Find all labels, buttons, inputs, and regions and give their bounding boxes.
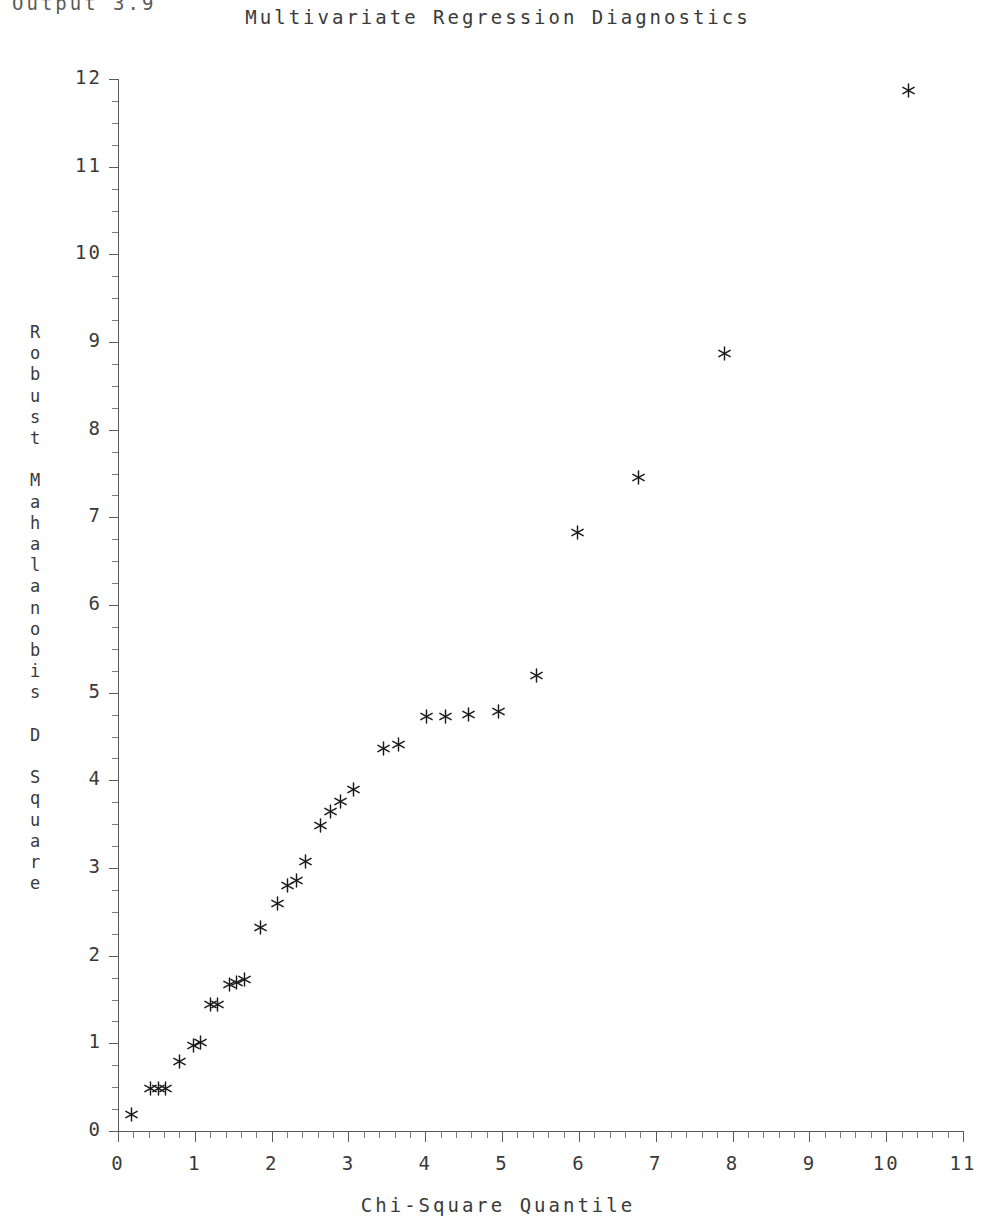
x-axis-line — [118, 1131, 963, 1132]
x-tick-label: 2 — [242, 1152, 302, 1174]
y-tick-label: 6 — [40, 592, 102, 614]
x-tick-label: 9 — [779, 1152, 839, 1174]
y-tick-minor — [112, 802, 118, 803]
x-tick-minor — [548, 1131, 549, 1138]
y-tick-minor — [112, 474, 118, 475]
x-tick-minor — [763, 1131, 764, 1138]
x-tick-minor — [917, 1131, 918, 1138]
x-tick-label: 10 — [856, 1152, 916, 1174]
x-tick-minor — [779, 1131, 780, 1138]
y-tick-major — [109, 342, 118, 343]
y-tick-minor — [112, 145, 118, 146]
data-point-marker — [528, 667, 545, 684]
y-tick-major — [109, 868, 118, 869]
y-tick-minor — [112, 539, 118, 540]
x-tick-major — [886, 1131, 887, 1142]
plot-area: 012345678910111201234567891011 — [0, 0, 996, 1228]
x-tick-minor — [533, 1131, 534, 1138]
y-tick-minor — [112, 211, 118, 212]
x-tick-major — [118, 1131, 119, 1142]
x-tick-label: 11 — [933, 1152, 993, 1174]
x-tick-minor — [256, 1131, 257, 1138]
y-tick-major — [109, 780, 118, 781]
y-tick-minor — [112, 737, 118, 738]
y-tick-major — [109, 956, 118, 957]
y-tick-minor — [112, 671, 118, 672]
y-tick-minor — [112, 386, 118, 387]
y-tick-label: 3 — [40, 855, 102, 877]
x-tick-minor — [717, 1131, 718, 1138]
y-tick-minor — [112, 408, 118, 409]
y-tick-minor — [112, 189, 118, 190]
y-tick-minor — [112, 452, 118, 453]
data-point-marker — [345, 781, 362, 798]
y-tick-minor — [112, 1109, 118, 1110]
y-tick-minor — [112, 934, 118, 935]
x-tick-minor — [871, 1131, 872, 1138]
data-point-marker — [569, 524, 586, 541]
data-point-marker — [171, 1053, 188, 1070]
x-tick-label: 8 — [703, 1152, 763, 1174]
x-tick-minor — [379, 1131, 380, 1138]
y-tick-label: 7 — [40, 504, 102, 526]
data-point-marker — [490, 703, 507, 720]
x-tick-minor — [487, 1131, 488, 1138]
x-tick-minor — [302, 1131, 303, 1138]
y-tick-minor — [112, 320, 118, 321]
x-tick-minor — [410, 1131, 411, 1138]
x-tick-minor — [364, 1131, 365, 1138]
x-tick-minor — [456, 1131, 457, 1138]
x-tick-major — [809, 1131, 810, 1142]
y-tick-minor — [112, 824, 118, 825]
x-tick-minor — [594, 1131, 595, 1138]
x-tick-minor — [702, 1131, 703, 1138]
y-tick-minor — [112, 758, 118, 759]
x-tick-major — [579, 1131, 580, 1142]
y-tick-label: 0 — [40, 1118, 102, 1140]
data-point-marker — [437, 708, 454, 725]
x-tick-minor — [855, 1131, 856, 1138]
x-tick-major — [348, 1131, 349, 1142]
y-tick-minor — [112, 561, 118, 562]
x-tick-minor — [932, 1131, 933, 1138]
x-tick-major — [963, 1131, 964, 1142]
y-tick-minor — [112, 978, 118, 979]
y-tick-minor — [112, 583, 118, 584]
x-tick-minor — [686, 1131, 687, 1138]
x-tick-major — [733, 1131, 734, 1142]
y-tick-minor — [112, 1000, 118, 1001]
y-tick-label: 10 — [40, 241, 102, 263]
x-tick-minor — [179, 1131, 180, 1138]
y-tick-major — [109, 1043, 118, 1044]
x-tick-minor — [210, 1131, 211, 1138]
data-point-marker — [716, 345, 733, 362]
data-point-marker — [269, 895, 286, 912]
x-tick-minor — [395, 1131, 396, 1138]
x-tick-major — [195, 1131, 196, 1142]
y-tick-minor — [112, 364, 118, 365]
y-tick-label: 12 — [40, 66, 102, 88]
chart-page: Output 3.9 Multivariate Regression Diagn… — [0, 0, 996, 1228]
data-point-marker — [252, 919, 269, 936]
x-tick-minor — [517, 1131, 518, 1138]
data-point-marker — [209, 996, 226, 1013]
x-tick-label: 5 — [472, 1152, 532, 1174]
x-tick-major — [272, 1131, 273, 1142]
x-tick-minor — [825, 1131, 826, 1138]
y-tick-label: 4 — [40, 767, 102, 789]
y-axis-title: R o b u s t M a h a l a n o b i s D S q … — [22, 322, 48, 894]
data-point-marker — [630, 469, 647, 486]
data-point-marker — [900, 82, 917, 99]
y-tick-label: 11 — [40, 154, 102, 176]
x-tick-minor — [287, 1131, 288, 1138]
y-tick-major — [109, 1131, 118, 1132]
y-tick-major — [109, 693, 118, 694]
x-tick-minor — [441, 1131, 442, 1138]
y-tick-minor — [112, 1087, 118, 1088]
y-tick-minor — [112, 649, 118, 650]
x-tick-label: 7 — [626, 1152, 686, 1174]
y-tick-label: 9 — [40, 329, 102, 351]
x-tick-minor — [640, 1131, 641, 1138]
x-tick-minor — [610, 1131, 611, 1138]
x-tick-major — [425, 1131, 426, 1142]
